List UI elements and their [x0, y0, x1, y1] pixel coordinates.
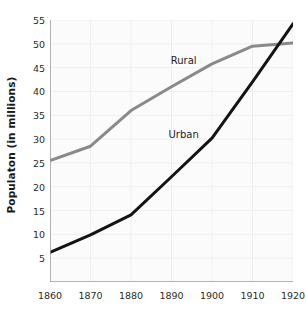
- series-label-rural: Rural: [171, 55, 197, 66]
- x-tick-label: 1910: [240, 290, 264, 301]
- y-tick-label: 20: [33, 181, 45, 192]
- y-tick-label: 45: [33, 62, 45, 73]
- x-tick-label: 1870: [78, 290, 102, 301]
- plot-area: RuralUrban: [50, 20, 293, 282]
- y-tick-label: 5: [39, 253, 45, 264]
- y-tick-label: 25: [33, 157, 45, 168]
- y-tick-label: 55: [33, 15, 45, 26]
- y-tick-label: 35: [33, 110, 45, 121]
- y-tick-label: 50: [33, 38, 45, 49]
- y-axis-tick-labels: 510152025303540455055: [22, 0, 48, 290]
- x-tick-label: 1920: [281, 290, 305, 301]
- y-axis-title-text: Populaton (in millions): [5, 77, 17, 214]
- series-label-urban: Urban: [169, 129, 199, 140]
- y-tick-label: 30: [33, 134, 45, 145]
- x-tick-label: 1900: [200, 290, 224, 301]
- y-axis-title: Populaton (in millions): [0, 0, 22, 290]
- y-tick-label: 15: [33, 205, 45, 216]
- y-tick-label: 40: [33, 86, 45, 97]
- x-tick-label: 1880: [119, 290, 143, 301]
- line-chart: Populaton (in millions) 5101520253035404…: [0, 0, 306, 321]
- x-tick-label: 1860: [38, 290, 62, 301]
- x-tick-label: 1890: [159, 290, 183, 301]
- y-tick-label: 10: [33, 229, 45, 240]
